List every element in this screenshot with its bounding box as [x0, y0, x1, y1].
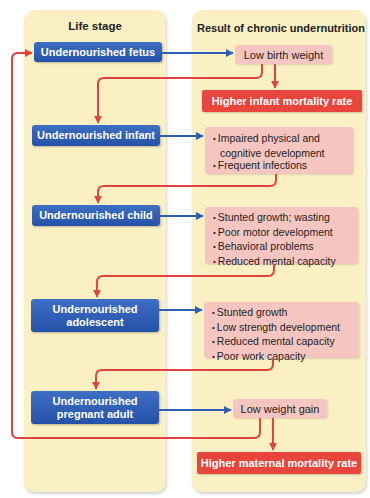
stage-child: Undernourished child: [32, 205, 160, 226]
stage-infant: Undernourished infant: [32, 125, 160, 146]
result-adolescent-item: Stunted growth: [212, 306, 353, 321]
infant-mortality-box: Higher infant mortality rate: [202, 90, 362, 112]
result-infant-item: Impaired physical and cognitive developm…: [213, 132, 347, 159]
stage-pregnant-adult: Undernourished pregnant adult: [31, 391, 159, 424]
result-child-item: Reduced mental capacity: [213, 255, 352, 270]
result-infant: Impaired physical and cognitive developm…: [205, 127, 353, 174]
result-child-item: Stunted growth; wasting: [213, 211, 352, 226]
result-adolescent-item: Reduced mental capacity: [212, 335, 353, 350]
maternal-mortality-box: Higher maternal mortality rate: [197, 452, 361, 474]
result-adolescent-item: Poor work capacity: [212, 350, 353, 365]
result-title: Result of chronic undernutrition: [192, 22, 370, 34]
result-adolescent: Stunted growth Low strength development …: [204, 302, 359, 358]
result-infant-item: Frequent infections: [213, 159, 347, 174]
stage-fetus: Undernourished fetus: [34, 42, 162, 62]
result-fetus: Low birth weight: [235, 45, 332, 64]
result-child-item: Behavioral problems: [213, 240, 352, 255]
result-child: Stunted growth; wasting Poor motor devel…: [205, 207, 358, 264]
result-child-item: Poor motor development: [213, 226, 352, 241]
life-stage-title: Life stage: [24, 20, 166, 32]
result-adolescent-item: Low strength development: [212, 321, 353, 336]
stage-adolescent: Undernourished adolescent: [31, 299, 159, 332]
result-pregnant-adult: Low weight gain: [233, 399, 327, 418]
